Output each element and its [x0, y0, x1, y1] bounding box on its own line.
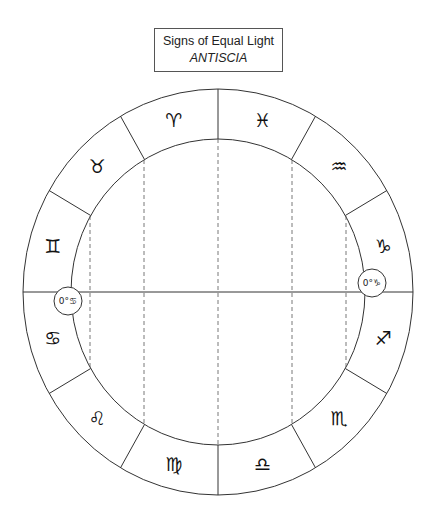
sign-divider — [49, 369, 91, 394]
cancer-glyph-icon: ♋︎ — [44, 327, 61, 349]
virgo-glyph-icon: ♍︎ — [165, 453, 182, 475]
sagittarius-glyph-icon: ♐︎ — [375, 327, 392, 349]
antiscia-wheel: ♈︎♓︎♒︎♑︎♐︎♏︎♎︎♍︎♌︎♋︎♊︎♉︎ 0°♋︎0°♑︎ — [0, 0, 432, 519]
cancer-0-marker: 0°♋︎ — [54, 287, 82, 315]
capricorn-0-marker: 0°♑︎ — [358, 269, 386, 297]
sign-divider — [292, 116, 316, 159]
wheel-structure — [23, 89, 413, 495]
libra-glyph-icon: ♎︎ — [254, 453, 271, 475]
leo-glyph-icon: ♌︎ — [89, 407, 106, 429]
sign-divider — [345, 369, 387, 394]
scorpio-glyph-icon: ♏︎ — [330, 407, 347, 429]
sign-divider — [121, 425, 145, 468]
pisces-glyph-icon: ♓︎ — [254, 109, 271, 131]
aquarius-glyph-icon: ♒︎ — [330, 155, 347, 177]
sign-divider — [345, 191, 387, 216]
marker-label: 0°♑︎ — [363, 278, 381, 288]
aries-glyph-icon: ♈︎ — [165, 109, 182, 131]
marker-label: 0°♋︎ — [59, 296, 77, 306]
capricorn-glyph-icon: ♑︎ — [375, 235, 392, 257]
taurus-glyph-icon: ♉︎ — [89, 155, 106, 177]
sign-divider — [49, 191, 91, 216]
gemini-glyph-icon: ♊︎ — [44, 235, 61, 257]
sign-divider — [121, 116, 145, 159]
sign-divider — [292, 425, 316, 468]
